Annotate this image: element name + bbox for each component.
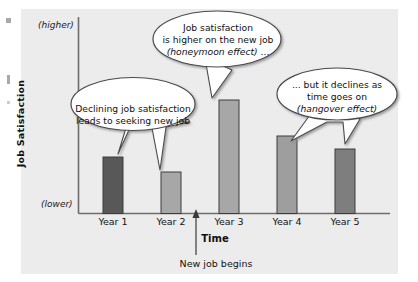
callout-3-line-2: time goes on [307,91,367,102]
new-job-begins-label: New job begins [146,258,286,269]
x-tick-year-3: Year 3 [197,216,261,227]
callout-2-line-3-tail: ... [258,46,270,57]
y-axis-title: Job Satisfaction [15,74,26,174]
callout-2-line-2: is higher on the new job [163,34,274,45]
callout-2-line-3-italic: (honeymoon effect) [167,46,258,57]
bar-year-4 [277,136,297,214]
x-tick-year-2: Year 2 [139,216,203,227]
bar-year-3 [219,100,239,214]
y-axis-high-label: (higher) [38,20,74,31]
bar-year-1 [103,157,123,214]
callout-2-line-1: Job satisfaction [183,22,253,33]
callout-3-text: ... but it declines as time goes on (han… [278,79,396,115]
bar-year-2 [161,172,181,214]
callout-3-line-1: ... but it declines as [292,79,382,90]
x-tick-year-4: Year 4 [255,216,319,227]
bar-year-5 [335,149,355,214]
callout-3-line-3-italic: (hangover effect) [297,103,377,114]
callout-1-text: Declining job satisfaction leads to seek… [72,103,194,127]
callout-1-line-1: Declining job satisfaction [75,103,191,114]
x-axis-title: Time [175,233,255,245]
x-tick-year-1: Year 1 [81,216,145,227]
callout-2-text: Job satisfaction is higher on the new jo… [155,22,281,58]
x-tick-year-5: Year 5 [313,216,377,227]
figure-container: Job Satisfaction (higher) (lower) Year 1… [0,0,418,282]
callout-1-line-2: leads to seeking new job [76,115,190,126]
y-axis-low-label: (lower) [41,199,73,210]
